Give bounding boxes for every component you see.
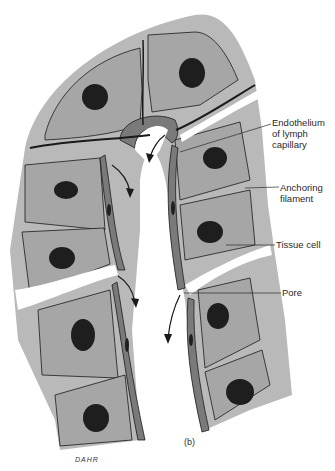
label-line: Anchoring: [280, 182, 323, 193]
label-endothelium: Endothelium of lymph capillary: [272, 117, 325, 150]
label-line: Tissue cell: [276, 239, 321, 250]
label-line: Endothelium: [272, 117, 325, 128]
label-line: capillary: [272, 139, 325, 150]
figure-caption: (b): [184, 437, 195, 447]
label-line: of lymph: [272, 128, 325, 139]
label-line: filament: [280, 193, 323, 204]
label-anchoring-filament: Anchoring filament: [280, 182, 323, 204]
label-line: Pore: [282, 287, 302, 298]
label-tissue-cell: Tissue cell: [276, 239, 321, 250]
label-pore: Pore: [282, 287, 302, 298]
artist-signature: DAHR: [75, 456, 99, 463]
lymph-capillary-diagram: [0, 0, 335, 471]
